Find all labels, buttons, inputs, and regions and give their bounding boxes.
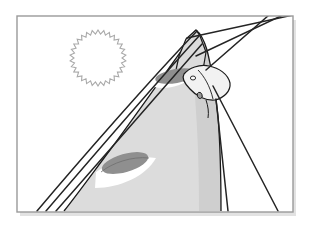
eyelet-upper-icon [190,76,195,80]
illustration-canvas: Teepee tent viewed from below with sun B… [0,0,310,230]
teepee-illustration: Teepee tent viewed from below with sun B… [0,0,310,230]
